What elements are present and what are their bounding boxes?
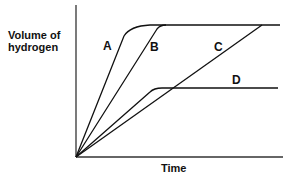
curve-d — [76, 88, 278, 157]
curve-label-a: A — [103, 39, 112, 53]
curve-label-c: C — [214, 40, 223, 54]
curve-label-b: B — [150, 40, 159, 54]
x-axis-label: Time — [161, 162, 186, 174]
curve-label-d: D — [232, 73, 241, 87]
graph: A B C D — [0, 0, 298, 178]
